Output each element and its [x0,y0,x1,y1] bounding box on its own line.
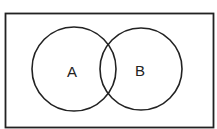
venn-diagram: A B [0,0,217,129]
set-b-label: B [135,62,145,79]
set-a-label: A [67,63,77,80]
